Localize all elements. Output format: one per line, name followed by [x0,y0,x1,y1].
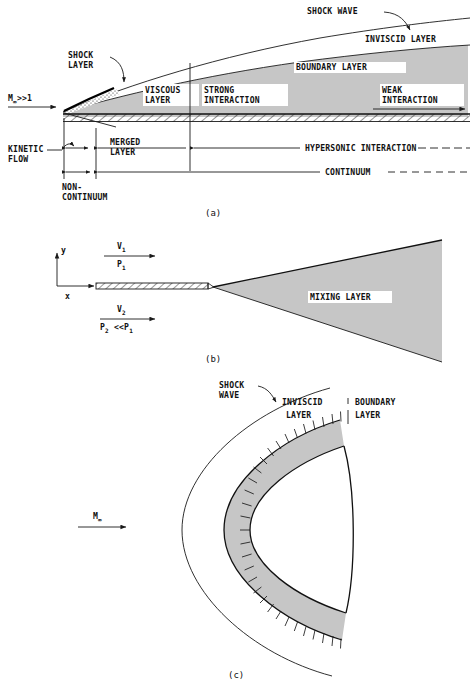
axis-x-label-b: x [65,291,70,301]
hypersonic-interaction-figure: M∞>>1 SHOCK WAVE INVISCID LAYER BOUNDARY… [0,0,472,687]
continuum-label-a: CONTINUUM [325,167,371,177]
merged-layer-label-line2-a: LAYER [110,147,135,157]
inviscid-layer-label-line1-c: INVISCID [282,397,323,407]
shock-wave-label-line1-c: SHOCK [219,380,244,390]
non-continuum-label-line1-a: NON- [62,182,82,192]
axis-y-label-b: y [61,245,66,255]
panel-b-caption: (b) [205,354,221,364]
p1-label-b: P1 [117,259,126,271]
mixing-layer-label-b: MIXING LAYER [310,292,371,302]
panel-a: M∞>>1 SHOCK WAVE INVISCID LAYER BOUNDARY… [8,6,470,218]
shock-wave-label-a: SHOCK WAVE [307,6,358,16]
boundary-layer-label-line1-c: BOUNDARY [355,397,396,407]
panel-a-caption: (a) [205,208,221,218]
viscous-layer-label-line1-a: VISCOUS [145,85,181,95]
p2-label-b: P2 <<P1 [100,322,133,334]
shock-wave-leader-c [258,386,276,402]
weak-interaction-label-line2-a: INTERACTION [382,95,438,105]
boundary-layer-label-line2-c: LAYER [355,410,380,420]
strong-interaction-label-line2-a: INTERACTION [204,95,260,105]
flat-plate-b [96,283,208,289]
merged-layer-label-line1-a: MERGED [110,137,140,147]
weak-interaction-label-line1-a: WEAK [382,85,402,95]
inviscid-layer-label-a: INVISCID LAYER [365,34,436,44]
shock-layer-leader-a [110,57,124,82]
non-continuum-label-line2-a: CONTINUUM [62,192,108,202]
panel-c: M∞ SHOCK WAVE INVISCID LAYER BOUNDARY LA… [78,380,396,680]
freestream-label-c: M∞ [93,511,102,523]
freestream-label-a: M∞>>1 [8,93,32,105]
strong-interaction-label-line1-a: STRONG [204,85,234,95]
kinetic-flow-label-line1-a: KINETIC [8,144,44,154]
inviscid-layer-label-line2-c: LAYER [286,410,311,420]
v1-label-b: V1 [117,241,126,253]
hypersonic-interaction-label-a: HYPERSONIC INTERACTION [305,143,417,153]
body-aft-edge-c [344,446,353,613]
wall-hatching-a [63,114,470,122]
boundary-layer-label-a: BOUNDARY LAYER [296,62,367,72]
shock-layer-label-line2-a: LAYER [68,60,93,70]
plate-taper-b [208,283,213,289]
v2-label-b: V2 [117,304,126,316]
panel-b: y x V1 P1 V2 P2 <<P1 MIXING LAYER (b) [57,240,442,364]
viscous-layer-label-line2-a: LAYER [145,95,170,105]
shock-wave-label-line2-c: WAVE [219,390,239,400]
panel-c-caption: (c) [228,670,244,680]
kinetic-flow-label-line2-a: FLOW [8,154,28,164]
shock-layer-label-line1-a: SHOCK [68,50,93,60]
